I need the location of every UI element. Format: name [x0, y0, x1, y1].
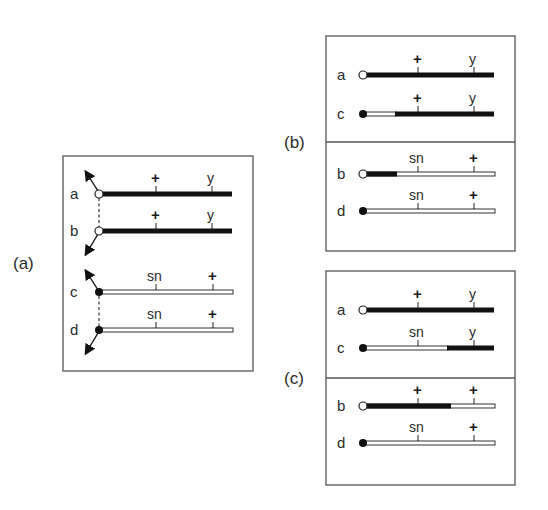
locus-label: sn — [147, 306, 162, 322]
spindle-arrow-down-icon — [86, 234, 98, 254]
chromatid-label: d — [337, 202, 345, 219]
chromatid-label: d — [337, 434, 345, 451]
locus-label: sn — [409, 150, 424, 166]
chromatid-label: b — [337, 165, 345, 182]
chromatid-d: d sn + — [337, 418, 495, 451]
chromatid-label: c — [337, 339, 345, 356]
locus-label: + — [208, 267, 217, 284]
locus-label: sn — [409, 187, 424, 203]
panel-c-label: (c) — [284, 369, 304, 388]
chromatid-label: a — [337, 301, 346, 318]
locus-label: + — [208, 305, 217, 322]
panel-a-border — [63, 156, 253, 371]
chromatid-b: b sn + — [337, 149, 495, 182]
chromatid-d: d sn + — [337, 186, 495, 219]
spindle-arrow-up-icon — [86, 172, 98, 191]
centromere-open-icon — [359, 71, 367, 79]
centromere-filled-icon — [95, 288, 103, 296]
locus-label: + — [413, 89, 422, 106]
locus-label: + — [413, 381, 422, 398]
locus-label: sn — [147, 268, 162, 284]
centromere-filled-icon — [359, 207, 367, 215]
chromatid-black-segment — [102, 229, 232, 234]
locus-label: y — [469, 90, 476, 106]
chromatid-d: d sn + — [70, 305, 233, 338]
chromatid-label: d — [70, 321, 78, 338]
locus-label: y — [207, 170, 214, 186]
locus-label: + — [469, 418, 478, 435]
locus-label: + — [413, 50, 422, 67]
centromere-filled-icon — [359, 439, 367, 447]
spindle-arrow-up-icon — [86, 271, 98, 290]
locus-label: + — [413, 285, 422, 302]
panel-a: (a) a + y b + y — [13, 156, 253, 371]
locus-label: sn — [409, 324, 424, 340]
centromere-open-icon — [359, 170, 367, 178]
chromatid-label: c — [70, 283, 78, 300]
locus-label: y — [469, 286, 476, 302]
chromatid-label: a — [70, 185, 79, 202]
centromere-open-icon — [95, 190, 103, 198]
chromatid-white-segment — [102, 328, 233, 332]
locus-label: y — [469, 51, 476, 67]
spindle-arrow-down-icon — [86, 333, 98, 353]
panel-a-label: (a) — [13, 254, 34, 273]
locus-label: + — [469, 381, 478, 398]
centromere-filled-icon — [359, 344, 367, 352]
locus-label: + — [151, 206, 160, 223]
panel-b-label: (b) — [284, 133, 305, 152]
chromatid-label: b — [70, 222, 78, 239]
chromatid-b: b + y — [70, 206, 232, 239]
chromatid-black-segment — [102, 192, 232, 197]
locus-label: y — [469, 324, 476, 340]
panel-b: (b) a + y c + y b — [284, 36, 515, 251]
chromosome-crossover-diagram: (a) a + y b + y — [0, 0, 548, 510]
centromere-open-icon — [359, 402, 367, 410]
panel-c: (c) a + y c sn y b — [284, 271, 515, 485]
chromatid-b: b + + — [337, 381, 495, 414]
chromatid-label: b — [337, 397, 345, 414]
locus-label: + — [469, 186, 478, 203]
chromatid-white-segment — [102, 290, 233, 294]
chromatid-label: a — [337, 66, 346, 83]
chromatid-a: a + y — [337, 285, 494, 318]
centromere-filled-icon — [95, 326, 103, 334]
chromatid-c: c + y — [337, 89, 494, 122]
chromatid-label: c — [337, 105, 345, 122]
centromere-open-icon — [95, 227, 103, 235]
locus-label: sn — [409, 419, 424, 435]
panel-b-border — [326, 36, 515, 251]
chromatid-a: a + y — [337, 50, 494, 83]
centromere-open-icon — [359, 306, 367, 314]
locus-label: + — [151, 169, 160, 186]
locus-label: y — [207, 207, 214, 223]
chromatid-c: c sn y — [337, 324, 494, 356]
locus-label: + — [469, 149, 478, 166]
centromere-filled-icon — [359, 110, 367, 118]
